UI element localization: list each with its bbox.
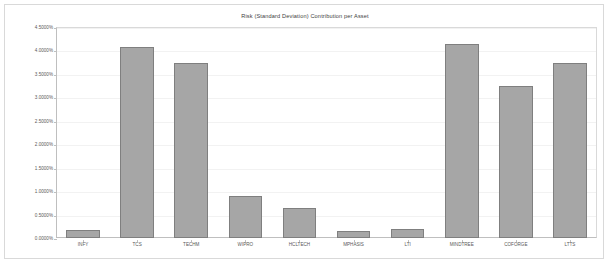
y-axis-tick-label: 1.0000%: [9, 189, 53, 194]
y-axis-labels: 0.0000%0.5000%1.0000%1.5000%2.0000%2.500…: [5, 27, 53, 238]
x-axis-labels: INFYTCSTECHMWIPROHCLTECHMPHASISLTIMINDTR…: [56, 240, 597, 254]
y-axis-tick-label: 2.5000%: [9, 118, 53, 123]
x-axis-tick-label: LTTS: [564, 242, 575, 247]
bar-techm[interactable]: [174, 63, 208, 238]
chart-title: Risk (Standard Deviation) Contribution p…: [5, 13, 605, 19]
x-axis-tick-label: HCLTECH: [289, 242, 310, 247]
y-axis-tick-label: 3.0000%: [9, 95, 53, 100]
y-axis-tick-label: 3.5000%: [9, 71, 53, 76]
x-axis-tick-label: LTI: [404, 242, 410, 247]
bar-infy[interactable]: [66, 230, 100, 238]
x-axis-tick-label: TECHM: [183, 242, 199, 247]
x-axis-tick-label: WIPRO: [238, 242, 254, 247]
bar-lti[interactable]: [391, 229, 425, 238]
y-axis-tick-label: 4.0000%: [9, 48, 53, 53]
y-axis-tick-label: 2.0000%: [9, 142, 53, 147]
x-axis-tick-label: MINDTREE: [450, 242, 474, 247]
bar-mphasis[interactable]: [337, 231, 371, 238]
x-axis-tick-label: INFY: [78, 242, 88, 247]
bars-layer: [56, 27, 597, 238]
y-axis-tick-label: 4.5000%: [9, 25, 53, 30]
x-axis-tick-label: MPHASIS: [343, 242, 364, 247]
y-axis-tick-label: 1.5000%: [9, 165, 53, 170]
chart-container: Risk (Standard Deviation) Contribution p…: [0, 0, 608, 263]
chart-frame: Risk (Standard Deviation) Contribution p…: [4, 4, 604, 259]
x-axis-tick-label: TCS: [133, 242, 142, 247]
y-axis-tick-label: 0.5000%: [9, 212, 53, 217]
bar-mindtree[interactable]: [445, 44, 479, 238]
x-axis-tick-label: COFORGE: [504, 242, 527, 247]
bar-coforge[interactable]: [499, 86, 533, 238]
y-axis-tick-label: 0.0000%: [9, 236, 53, 241]
bar-wipro[interactable]: [229, 196, 263, 238]
bar-hcltech[interactable]: [283, 208, 317, 238]
bar-ltts[interactable]: [553, 63, 587, 238]
bar-tcs[interactable]: [120, 47, 154, 238]
